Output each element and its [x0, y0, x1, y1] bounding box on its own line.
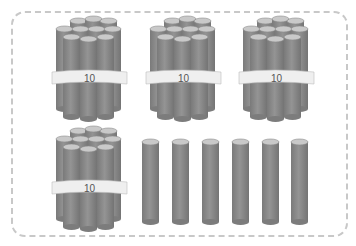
bundle-label: 10	[271, 73, 283, 84]
bundle-label: 10	[84, 73, 96, 84]
single-rod	[202, 139, 219, 225]
bundle-of-ten: 10	[52, 126, 127, 232]
bundle-of-ten: 10	[239, 16, 314, 122]
single-rods	[142, 139, 308, 225]
single-rod	[262, 139, 279, 225]
single-rod	[232, 139, 249, 225]
rods-diagram: 10 10 10 10	[0, 0, 356, 246]
bundle-label: 10	[84, 183, 96, 194]
bundle-label: 10	[178, 73, 190, 84]
single-rod	[291, 139, 308, 225]
bundle-of-ten: 10	[52, 16, 127, 122]
single-rod	[142, 139, 159, 225]
bundle-of-ten: 10	[146, 16, 221, 122]
single-rod	[172, 139, 189, 225]
